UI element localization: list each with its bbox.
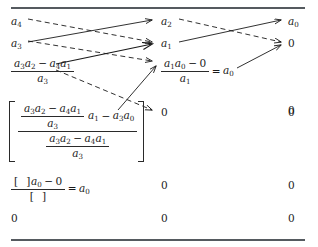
- cell-row2-col1: a3: [11, 38, 22, 50]
- cell-row2-col3: 0: [288, 38, 295, 49]
- math-term: a0: [288, 15, 299, 27]
- zero-value: 0: [288, 106, 295, 118]
- cell-row6-col1: 0: [11, 213, 18, 224]
- subscript: 3: [17, 42, 22, 51]
- fraction: a3a2−a4a1 a3: [11, 58, 74, 85]
- math-term: a4: [11, 15, 22, 27]
- cell-row5-col3: 0: [288, 180, 295, 191]
- square-bracket-group: a3a2−a4a1 a3 a1−a3a0 a3a2−a4a1 a3: [9, 101, 144, 162]
- zero-value: 0: [11, 212, 18, 224]
- math-term: a3: [11, 37, 22, 49]
- equals-sign: =: [209, 66, 223, 77]
- cell-row4-col1: a3a2−a4a1 a3 a1−a3a0 a3a2−a4a1 a3: [9, 101, 144, 162]
- zero-value: 0: [288, 37, 295, 49]
- math-term: a2: [161, 15, 172, 27]
- cell-row1-col3: a0: [288, 16, 299, 28]
- equals-sign: =: [65, 183, 79, 194]
- zero-value: 0: [288, 212, 295, 224]
- subscript: 4: [17, 20, 22, 29]
- outer-fraction: a3a2−a4a1 a3 a1−a3a0 a3a2−a4a1 a3: [18, 103, 137, 160]
- zero-value: 0: [288, 179, 295, 191]
- zero-value: 0: [161, 212, 168, 224]
- subscript: 0: [294, 20, 299, 29]
- fraction-denominator: a1: [161, 71, 209, 85]
- cell-row4-col2: 0: [161, 107, 168, 118]
- routh-array-figure: a4 a2 a0 a3 a1 0 a3a2−a4a1 a3 a1a0−0 a1 …: [0, 0, 318, 247]
- arrow-a3-to-a2: [28, 20, 152, 42]
- fraction: [ ]a0−0 [ ]: [11, 176, 65, 202]
- fraction-numerator: [ ]a0−0: [11, 176, 65, 189]
- cell-row5-col2: 0: [161, 180, 168, 191]
- inner-fraction-numerator: a3a2−a4a1 a3: [21, 103, 84, 130]
- cell-row4-col3: 0: [288, 107, 295, 118]
- cell-row5-col1: [ ]a0−0 [ ] =a0: [11, 176, 90, 202]
- zero-value: 0: [161, 106, 168, 118]
- cell-row1-col2: a2: [161, 16, 172, 28]
- cell-row1-col1: a4: [11, 16, 22, 28]
- fraction: a1a0−0 a1: [161, 58, 209, 85]
- cell-row2-col2: a1: [161, 38, 172, 50]
- cell-row3-col2: a1a0−0 a1 =a0: [161, 58, 234, 85]
- arrow-row3col2-to-zero: [237, 45, 281, 68]
- outer-numerator: a3a2−a4a1 a3 a1−a3a0: [18, 103, 137, 131]
- fraction-result: a0: [223, 65, 234, 77]
- zero-value: 0: [161, 179, 168, 191]
- cell-row6-col2: 0: [161, 213, 168, 224]
- fraction-result: a0: [79, 183, 90, 195]
- fraction-numerator: a1a0−0: [161, 58, 209, 71]
- fraction-denominator: a3: [11, 71, 74, 85]
- subscript: 2: [167, 20, 172, 29]
- outer-denominator: a3a2−a4a1 a3: [18, 131, 137, 160]
- inner-fraction-denominator: a3a2−a4a1 a3: [46, 133, 109, 160]
- math-term: a1: [161, 37, 172, 49]
- fraction-numerator: a3a2−a4a1: [11, 58, 74, 71]
- subscript: 1: [167, 42, 172, 51]
- cell-row6-col3: 0: [288, 213, 295, 224]
- fraction-denominator: [ ]: [11, 189, 65, 202]
- cell-row3-col1: a3a2−a4a1 a3: [11, 58, 74, 85]
